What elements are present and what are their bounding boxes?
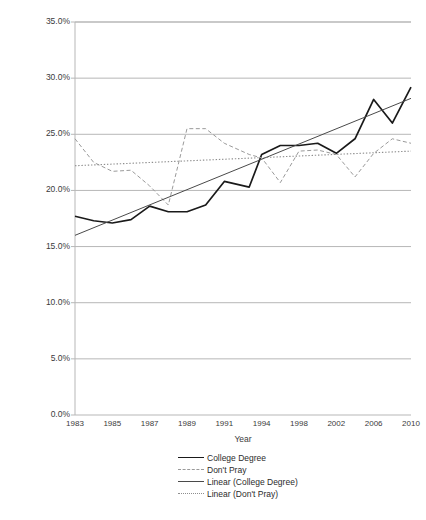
x-axis-tick-label: 1987 bbox=[130, 419, 170, 428]
chart-container: Percent of American population 0.0%5.0%1… bbox=[0, 0, 426, 520]
legend-line-swatch-icon bbox=[178, 489, 204, 499]
x-axis-tick-label: 1983 bbox=[55, 419, 95, 428]
x-axis-tick-label: 1991 bbox=[204, 419, 244, 428]
legend-item-label: Linear (College Degree) bbox=[207, 477, 298, 488]
legend-item: College Degree bbox=[178, 452, 298, 464]
legend-line-swatch-icon bbox=[178, 465, 204, 475]
legend-item: Linear (Don't Pray) bbox=[178, 488, 298, 500]
x-axis-title: Year bbox=[75, 434, 411, 444]
series-line-1 bbox=[75, 87, 411, 223]
legend-item: Don't Pray bbox=[178, 464, 298, 476]
legend-line-swatch-icon bbox=[178, 477, 204, 487]
series-line-4 bbox=[75, 151, 411, 166]
x-axis-tick-label: 1994 bbox=[242, 419, 282, 428]
legend-item: Linear (College Degree) bbox=[178, 476, 298, 488]
legend-item-label: College Degree bbox=[207, 453, 266, 464]
x-axis-tick-label: 1985 bbox=[92, 419, 132, 428]
legend-item-label: Linear (Don't Pray) bbox=[207, 489, 278, 500]
series-line-3 bbox=[75, 98, 411, 235]
legend-line-swatch-icon bbox=[178, 453, 204, 463]
x-axis-tick-label: 1998 bbox=[279, 419, 319, 428]
chart-legend: College DegreeDon't PrayLinear (College … bbox=[178, 452, 298, 500]
x-axis-tick-label: 2010 bbox=[391, 419, 426, 428]
x-axis-tick-label: 2006 bbox=[354, 419, 394, 428]
legend-item-label: Don't Pray bbox=[207, 465, 246, 476]
x-axis-tick-label: 1989 bbox=[167, 419, 207, 428]
x-axis-tick-label: 2002 bbox=[316, 419, 356, 428]
